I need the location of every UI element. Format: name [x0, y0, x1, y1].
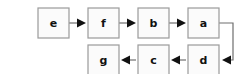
edge-line	[219, 23, 233, 60]
flowchart-diagram: efbagcd	[0, 0, 241, 74]
edge-b-a	[169, 18, 186, 27]
edge-d-c	[171, 55, 186, 64]
arrowhead-icon	[171, 55, 180, 64]
arrowhead-icon	[121, 55, 130, 64]
arrowhead-icon	[177, 18, 186, 27]
node-label: b	[150, 17, 158, 30]
node-c[interactable]: c	[138, 45, 169, 74]
node-label: g	[100, 54, 108, 67]
node-g[interactable]: g	[88, 45, 119, 74]
node-f[interactable]: f	[88, 8, 119, 38]
edge-c-g	[121, 55, 136, 64]
node-layer: efbagcd	[38, 8, 219, 74]
diagram-canvas: efbagcd	[0, 0, 241, 74]
arrowhead-icon	[127, 18, 136, 27]
node-b[interactable]: b	[138, 8, 169, 38]
arrowhead-icon	[77, 18, 86, 27]
node-a[interactable]: a	[188, 8, 219, 38]
node-label: c	[150, 54, 157, 67]
node-label: a	[200, 17, 207, 30]
edge-e-f	[69, 18, 86, 27]
node-label: f	[101, 17, 106, 30]
node-label: e	[50, 17, 57, 30]
node-d[interactable]: d	[188, 45, 219, 74]
node-label: d	[200, 54, 208, 67]
arrowhead-icon	[222, 55, 231, 64]
edge-f-b	[119, 18, 136, 27]
node-e[interactable]: e	[38, 8, 69, 38]
